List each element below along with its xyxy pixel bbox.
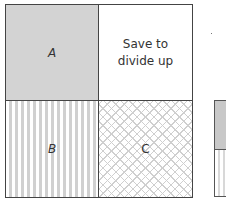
save-label-line1: Save to [118, 36, 173, 53]
cell-save-to-divide-up: Save to divide up [99, 5, 192, 101]
partial-bar-striped-section [215, 150, 226, 196]
cell-a: A [6, 5, 99, 101]
cell-c: C [99, 101, 192, 197]
cell-a-label: A [48, 46, 56, 60]
save-label: Save to divide up [118, 36, 173, 70]
partial-bar-grey-section [215, 101, 226, 150]
cell-c-label: C [141, 142, 149, 156]
cell-b-label: B [48, 142, 56, 156]
stray-dot [211, 33, 212, 34]
partial-bar-diagram [214, 100, 226, 197]
cell-b: B [6, 101, 99, 197]
save-label-line2: divide up [118, 53, 173, 70]
